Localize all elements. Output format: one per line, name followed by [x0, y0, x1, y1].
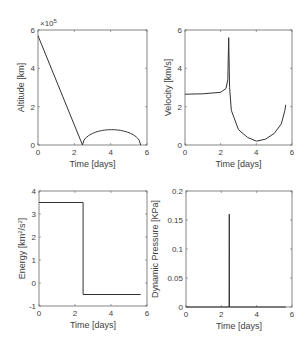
- y-axis-label: Energy [km2/s2]: [17, 218, 27, 280]
- y-tick-label: 0.15: [167, 216, 183, 225]
- y-axis-label: Altitude [km]: [16, 63, 26, 113]
- y-tick-label: 3: [32, 210, 37, 219]
- y-tick-label: 0.1: [172, 245, 184, 254]
- x-tick-label: 2: [72, 148, 77, 157]
- y-exponent-label: ×105: [40, 18, 58, 28]
- axes-box: [186, 191, 292, 307]
- y-tick-label: 0.2: [172, 187, 184, 196]
- x-tick-label: 6: [290, 148, 295, 157]
- y-tick-label: 0: [32, 279, 37, 288]
- x-axis-label: Time [days]: [216, 321, 262, 331]
- y-tick-label: 6: [178, 26, 183, 35]
- axes-box: [38, 30, 147, 145]
- y-tick-label: 0.05: [167, 274, 183, 283]
- axes-box: [185, 30, 292, 145]
- y-tick-label: 0: [178, 141, 183, 150]
- x-tick-label: 0: [36, 148, 41, 157]
- y-tick-label: 4: [178, 64, 183, 73]
- y-tick-label: 2: [32, 233, 37, 242]
- x-tick-label: 2: [73, 309, 78, 318]
- x-axis-label: Time [days]: [69, 159, 115, 169]
- x-axis-label: Time [days]: [70, 320, 116, 330]
- x-tick-label: 6: [290, 310, 295, 319]
- y-tick-label: 2: [31, 103, 36, 112]
- y-tick-label: 6: [31, 26, 36, 35]
- y-tick-label: 4: [32, 187, 37, 196]
- x-tick-label: 4: [109, 309, 114, 318]
- x-tick-label: 0: [183, 148, 188, 157]
- y-axis-label: Velocity [km/s]: [163, 59, 173, 117]
- x-tick-label: 0: [37, 309, 42, 318]
- y-tick-label: 2: [178, 103, 183, 112]
- y-tick-label: 0: [31, 141, 36, 150]
- x-tick-label: 4: [254, 310, 259, 319]
- energy-plot: 0246-101234Time [days]Energy [km2/s2]: [17, 187, 150, 330]
- x-tick-label: 0: [184, 310, 189, 319]
- x-tick-label: 4: [108, 148, 113, 157]
- y-tick-label: 0: [179, 303, 184, 312]
- x-tick-label: 6: [145, 309, 150, 318]
- x-axis-label: Time [days]: [215, 159, 261, 169]
- figure: 02460246Time [days]Altitude [km]×1050246…: [0, 0, 307, 349]
- axes-box: [39, 191, 147, 306]
- velocity-plot: 02460246Time [days]Velocity [km/s]: [163, 26, 295, 169]
- x-tick-label: 6: [145, 148, 150, 157]
- y-tick-label: 4: [31, 64, 36, 73]
- altitude-plot: 02460246Time [days]Altitude [km]×105: [16, 18, 150, 169]
- y-axis-label: Dynamic Pressure [KPa]: [150, 200, 160, 298]
- pressure-plot: 024600.050.10.150.2Time [days]Dynamic Pr…: [150, 187, 295, 331]
- x-tick-label: 2: [219, 310, 224, 319]
- x-tick-label: 4: [254, 148, 259, 157]
- y-tick-label: -1: [29, 302, 37, 311]
- x-tick-label: 2: [218, 148, 223, 157]
- y-tick-label: 1: [32, 256, 37, 265]
